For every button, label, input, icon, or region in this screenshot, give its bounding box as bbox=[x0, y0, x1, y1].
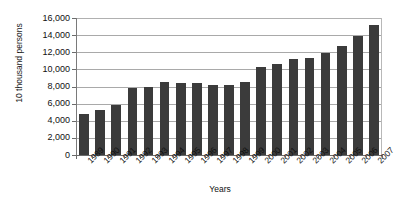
bar bbox=[224, 85, 234, 155]
bar-slot bbox=[140, 18, 156, 155]
bar bbox=[321, 53, 331, 155]
bar-slot bbox=[301, 18, 317, 155]
bar bbox=[256, 67, 266, 155]
y-axis-tick-label: 8,000 bbox=[24, 82, 70, 91]
bar bbox=[272, 64, 282, 155]
bar bbox=[208, 85, 218, 155]
bar-slot bbox=[221, 18, 237, 155]
bar bbox=[192, 83, 202, 155]
bar bbox=[79, 114, 89, 155]
x-axis-tick-mark bbox=[366, 155, 367, 159]
y-axis-tick-label: 0 bbox=[24, 151, 70, 160]
y-axis-tick-label: 14,000 bbox=[24, 31, 70, 40]
y-axis-tick-label: 4,000 bbox=[24, 116, 70, 125]
x-axis-tick-mark bbox=[140, 155, 141, 159]
x-axis-tick-mark bbox=[350, 155, 351, 159]
bar bbox=[176, 83, 186, 155]
bar bbox=[240, 82, 250, 155]
bar bbox=[305, 58, 315, 155]
bar-slot bbox=[124, 18, 140, 155]
bar-slot bbox=[205, 18, 221, 155]
bar bbox=[353, 36, 363, 155]
x-axis-title: Years bbox=[0, 184, 416, 194]
y-axis-tick-label: 12,000 bbox=[24, 48, 70, 57]
x-axis-tick-mark bbox=[76, 155, 77, 159]
bar-slot bbox=[76, 18, 92, 155]
x-axis-tick-mark bbox=[237, 155, 238, 159]
bar bbox=[337, 46, 347, 155]
x-axis-tick-mark bbox=[318, 155, 319, 159]
x-axis-tick-mark bbox=[205, 155, 206, 159]
bar-slot bbox=[269, 18, 285, 155]
y-axis-title: 10 thousand persons bbox=[14, 3, 24, 123]
x-axis-tick-mark bbox=[124, 155, 125, 159]
bar-slot bbox=[350, 18, 366, 155]
y-axis-tick-label: 2,000 bbox=[24, 133, 70, 142]
bar-slot bbox=[334, 18, 350, 155]
bar-slot bbox=[189, 18, 205, 155]
x-axis-tick-mark bbox=[173, 155, 174, 159]
x-axis-tick-mark bbox=[285, 155, 286, 159]
x-axis-tick-mark bbox=[157, 155, 158, 159]
bar bbox=[369, 25, 379, 155]
y-axis-tick-label: 16,000 bbox=[24, 14, 70, 23]
x-axis-tick-mark bbox=[269, 155, 270, 159]
bar-slot bbox=[318, 18, 334, 155]
x-axis-tick-mark bbox=[253, 155, 254, 159]
y-axis-tick-label: 6,000 bbox=[24, 99, 70, 108]
bar-slot bbox=[173, 18, 189, 155]
bar-slot bbox=[285, 18, 301, 155]
bar-slot bbox=[92, 18, 108, 155]
bar-slot bbox=[237, 18, 253, 155]
x-axis-tick-mark bbox=[382, 155, 383, 159]
x-axis-tick-mark bbox=[189, 155, 190, 159]
bar-series bbox=[76, 18, 382, 155]
bar-slot bbox=[108, 18, 124, 155]
bar-slot bbox=[157, 18, 173, 155]
x-axis-tick-mark bbox=[92, 155, 93, 159]
bar-chart: 10 thousand persons 16,00014,00012,00010… bbox=[0, 0, 416, 201]
bar bbox=[289, 59, 299, 155]
bar-slot bbox=[366, 18, 382, 155]
bar bbox=[160, 82, 170, 155]
x-axis-tick-mark bbox=[334, 155, 335, 159]
x-axis-tick-mark bbox=[301, 155, 302, 159]
x-axis-tick-mark bbox=[221, 155, 222, 159]
bar-slot bbox=[253, 18, 269, 155]
y-axis-tick-label: 10,000 bbox=[24, 65, 70, 74]
x-axis-tick-mark bbox=[108, 155, 109, 159]
